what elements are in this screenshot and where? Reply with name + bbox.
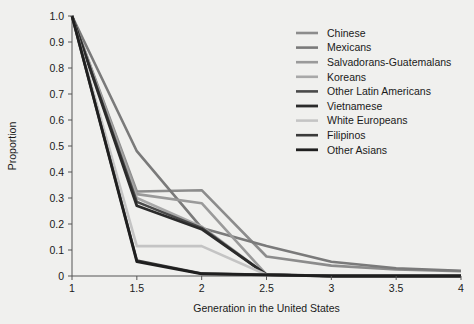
legend-label-white-europeans: White Europeans [327, 114, 408, 126]
legend-label-chinese: Chinese [327, 27, 366, 39]
series-line-other-asians [72, 16, 461, 276]
chart-series-group [72, 16, 461, 276]
y-tick-label: 0.9 [49, 36, 64, 48]
legend-label-other-asians: Other Asians [327, 144, 387, 156]
legend-label-salvadorans-guatemalans: Salvadorans-Guatemalans [327, 56, 451, 68]
x-tick-label: 1.5 [130, 282, 145, 294]
chart-legend: ChineseMexicansSalvadorans-GuatemalansKo… [296, 27, 451, 156]
legend-label-filipinos: Filipinos [327, 129, 366, 141]
x-tick-label: 3.5 [389, 282, 404, 294]
line-chart: 00.10.20.30.40.50.60.70.80.91.011.522.53… [0, 0, 474, 324]
x-tick-label: 2 [199, 282, 205, 294]
legend-label-mexicans: Mexicans [327, 41, 371, 53]
chart-container: 00.10.20.30.40.50.60.70.80.91.011.522.53… [0, 0, 474, 324]
x-tick-label: 1 [69, 282, 75, 294]
x-axis-title: Generation in the United States [193, 302, 340, 314]
legend-label-koreans: Koreans [327, 71, 366, 83]
y-axis-title: Proportion [6, 122, 18, 171]
legend-label-other-latin-americans: Other Latin Americans [327, 85, 431, 97]
y-tick-label: 0.7 [49, 88, 64, 100]
x-tick-label: 4 [458, 282, 464, 294]
y-tick-label: 0.6 [49, 114, 64, 126]
y-tick-label: 0.4 [49, 166, 64, 178]
y-tick-label: 0.5 [49, 140, 64, 152]
y-tick-label: 0.3 [49, 192, 64, 204]
y-tick-label: 0.1 [49, 244, 64, 256]
y-tick-label: 0.8 [49, 62, 64, 74]
legend-label-vietnamese: Vietnamese [327, 100, 382, 112]
y-tick-label: 0 [58, 270, 64, 282]
x-tick-label: 3 [328, 282, 334, 294]
y-tick-label: 0.2 [49, 218, 64, 230]
x-tick-label: 2.5 [259, 282, 274, 294]
y-tick-label: 1.0 [49, 10, 64, 22]
